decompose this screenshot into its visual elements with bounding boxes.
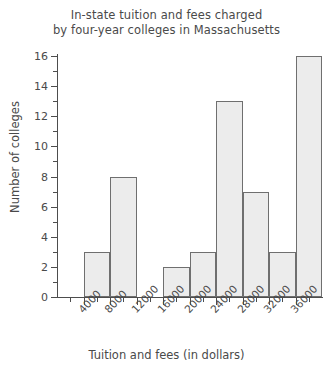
- chart-title-line-1: In-state tuition and fees charged: [0, 8, 333, 23]
- y-tick-label: 2: [18, 260, 48, 273]
- x-axis-title: Tuition and fees (in dollars): [0, 348, 333, 362]
- y-tick-label-group: 0246810121416: [12, 0, 48, 373]
- y-tick-label: 0: [18, 291, 48, 304]
- y-tick-label: 16: [18, 50, 48, 63]
- chart-title-line-2: by four-year colleges in Massachusetts: [0, 23, 333, 38]
- histogram-bars: [57, 50, 322, 297]
- y-tick-label: 8: [18, 170, 48, 183]
- y-tick-label: 14: [18, 80, 48, 93]
- y-tick-major: [51, 297, 57, 298]
- histogram-bar: [110, 177, 137, 298]
- y-tick-label: 10: [18, 140, 48, 153]
- x-tick-minor: [70, 298, 71, 302]
- chart-title: In-state tuition and fees charged by fou…: [0, 8, 333, 38]
- histogram-bar: [296, 56, 323, 297]
- histogram-bar: [243, 192, 270, 297]
- histogram-bar: [216, 101, 243, 297]
- y-tick-label: 4: [18, 230, 48, 243]
- y-tick-label: 12: [18, 110, 48, 123]
- y-tick-label: 6: [18, 200, 48, 213]
